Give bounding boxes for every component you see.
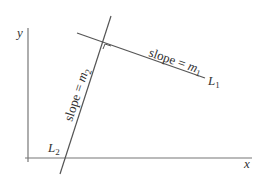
line-l1-label: L1 xyxy=(207,73,220,90)
slope-label-l1: slope = m1 xyxy=(146,45,204,79)
y-axis-label: y xyxy=(15,25,23,40)
slope-l1-text: slope = xyxy=(147,45,191,73)
x-axis-label: x xyxy=(243,156,250,171)
slope-label-l2: slope = m2 xyxy=(61,66,94,124)
svg-text:slope = m1: slope = m1 xyxy=(146,45,204,79)
line-l2-label: L2 xyxy=(47,140,60,157)
perpendicular-lines-diagram: y x slope = m1 slope = m2 L1 L2 xyxy=(0,0,266,175)
svg-text:slope = m2: slope = m2 xyxy=(61,66,94,124)
